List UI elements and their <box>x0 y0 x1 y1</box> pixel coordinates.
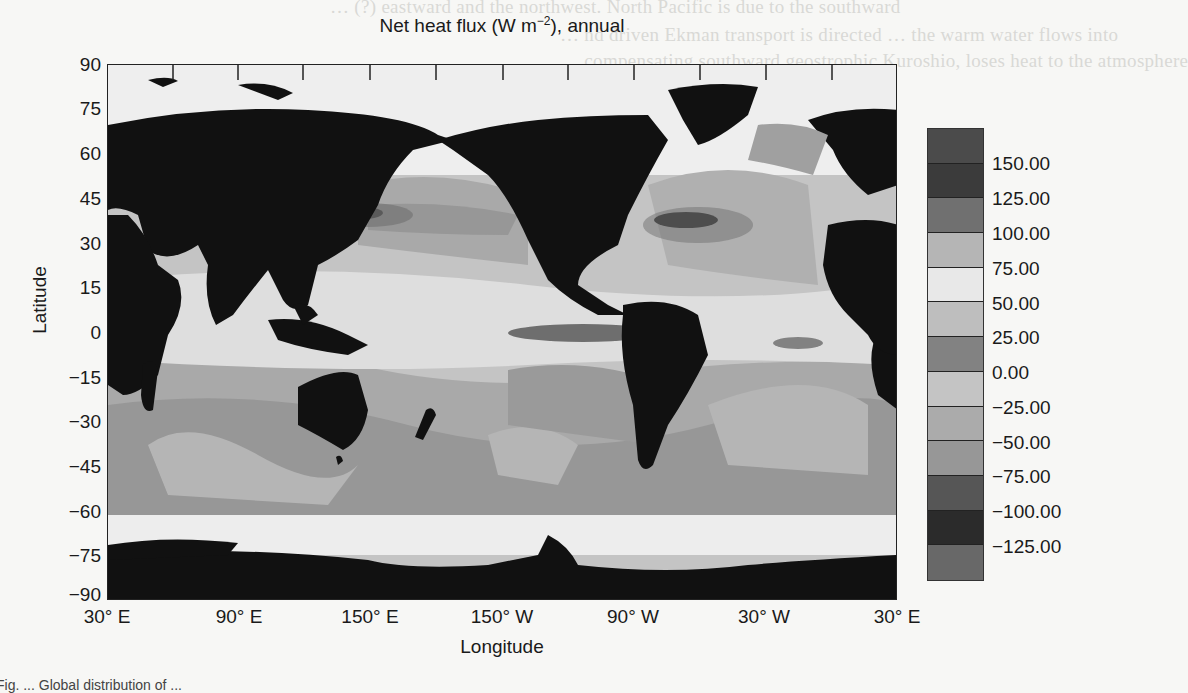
colorbar-label: 75.00 <box>992 258 1040 280</box>
y-tick-label: 15 <box>80 278 101 297</box>
colorbar-label: −125.00 <box>992 536 1061 558</box>
colorbar-band <box>928 337 983 372</box>
y-tick-label: 60 <box>80 144 101 163</box>
colorbar-band <box>928 302 983 337</box>
colorbar-band <box>928 441 983 476</box>
colorbar-label: 100.00 <box>992 223 1050 245</box>
x-tick-label: 30° W <box>738 606 790 628</box>
map-graphic <box>108 65 897 600</box>
x-tick-label: 150° E <box>341 606 398 628</box>
chart-title: Net heat flux (W m−2), annual <box>0 14 1004 37</box>
colorbar-band <box>928 233 983 268</box>
y-tick-label: 0 <box>90 323 101 342</box>
y-tick-label: 90 <box>80 55 101 74</box>
colorbar-label: −25.00 <box>992 397 1051 419</box>
colorbar-label: 125.00 <box>992 188 1050 210</box>
colorbar-band <box>928 476 983 511</box>
colorbar-band <box>928 545 983 580</box>
colorbar-label: −50.00 <box>992 432 1051 454</box>
colorbar-label: 150.00 <box>992 153 1050 175</box>
y-tick-label: −45 <box>69 457 101 476</box>
colorbar-label: 0.00 <box>992 362 1029 384</box>
colorbar-label: −75.00 <box>992 466 1051 488</box>
y-tick-label: 75 <box>80 99 101 118</box>
colorbar-band <box>928 129 983 164</box>
colorbar-band <box>928 268 983 303</box>
y-tick-label: −90 <box>69 585 101 604</box>
colorbar-label: 25.00 <box>992 327 1040 349</box>
y-tick-label: −75 <box>69 546 101 565</box>
y-axis-label: Latitude <box>29 266 51 334</box>
colorbar-band <box>928 164 983 199</box>
heat-flux-map <box>107 64 897 600</box>
x-tick-label: 90° E <box>216 606 263 628</box>
colorbar-label: 50.00 <box>992 293 1040 315</box>
y-tick-label: −30 <box>69 412 101 431</box>
y-tick-label: 45 <box>80 189 101 208</box>
x-tick-label: 90° W <box>607 606 659 628</box>
y-tick-label: −60 <box>69 502 101 521</box>
colorbar-band <box>928 372 983 407</box>
x-tick-label: 150° W <box>471 606 534 628</box>
colorbar-band <box>928 511 983 546</box>
colorbar <box>927 128 984 581</box>
colorbar-band <box>928 198 983 233</box>
figure-caption: Fig. ... Global distribution of ... <box>0 677 182 693</box>
y-tick-label: −15 <box>69 368 101 387</box>
colorbar-label: −100.00 <box>992 501 1061 523</box>
colorbar-band <box>928 407 983 442</box>
x-tick-label: 30° E <box>874 606 921 628</box>
x-tick-label: 30° E <box>84 606 131 628</box>
x-axis-label: Longitude <box>460 636 543 658</box>
y-tick-label: 30 <box>80 234 101 253</box>
